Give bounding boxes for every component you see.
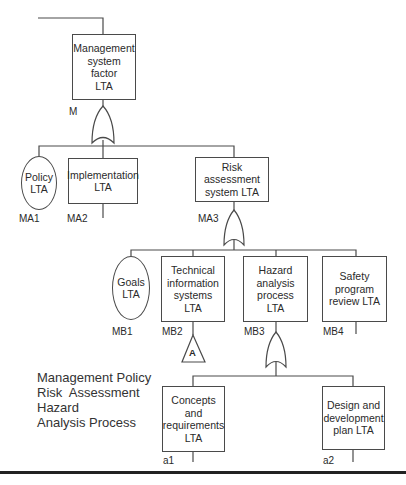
node-hazard-analysis-process[interactable]: Hazard analysis process LTA [243, 256, 308, 322]
or-gate-icon [266, 332, 286, 367]
node-text: systems [167, 289, 219, 302]
node-text: Implementation [67, 169, 139, 182]
node-text: information [167, 277, 219, 290]
node-text: requirements [163, 419, 224, 432]
node-id-label: MA3 [198, 213, 219, 224]
node-text: process [257, 289, 295, 302]
node-id-label: MA2 [67, 213, 88, 224]
node-safety-program-review[interactable]: Safety program review LTA [322, 256, 387, 322]
node-policy[interactable]: Policy LTA [21, 156, 57, 210]
node-management-system-factor[interactable]: Management system factor LTA [72, 34, 136, 100]
node-text: LTA [73, 80, 134, 93]
node-text: LTA [257, 302, 295, 315]
node-text: Safety [329, 270, 380, 283]
node-id-label: MB1 [112, 326, 133, 337]
transfer-label: A [189, 347, 196, 358]
node-text: LTA [25, 183, 53, 196]
node-text: development [323, 412, 383, 425]
node-text: LTA [67, 181, 139, 194]
legend-line: Hazard [37, 400, 151, 415]
node-design-and-development-plan[interactable]: Design and development plan LTA [322, 386, 385, 450]
node-text: Design and [323, 399, 383, 412]
node-text: review LTA [329, 295, 380, 308]
legend-line: Analysis Process [37, 415, 151, 430]
legend-line: Risk Assessment [37, 385, 151, 400]
clipped-caption [0, 479, 406, 485]
node-id-label: MA1 [19, 213, 40, 224]
node-id-label: M [69, 106, 77, 117]
node-text: Technical [167, 264, 219, 277]
node-text: system LTA [198, 186, 266, 199]
node-text: analysis [257, 277, 295, 290]
node-implementation[interactable]: Implementation LTA [68, 158, 138, 204]
node-text: LTA [117, 288, 144, 301]
node-goals[interactable]: Goals LTA [112, 256, 150, 320]
or-gate-icon [92, 106, 114, 143]
node-text: LTA [167, 302, 219, 315]
node-text: system [73, 55, 134, 68]
node-text: LTA [163, 432, 224, 445]
node-risk-assessment-system[interactable]: Risk assessment system LTA [195, 157, 269, 202]
node-text: plan LTA [323, 424, 383, 437]
node-text: Management [73, 42, 134, 55]
node-id-label: MB4 [323, 326, 344, 337]
node-text: Concepts and [163, 394, 224, 419]
node-text: Hazard [257, 264, 295, 277]
node-id-label: a2 [323, 455, 334, 466]
node-text: Policy [25, 171, 53, 184]
node-text: factor [73, 67, 134, 80]
node-technical-information-systems[interactable]: Technical information systems LTA [161, 256, 225, 322]
node-id-label: MB2 [162, 326, 183, 337]
diagram-legend: Management Policy Risk Assessment Hazard… [37, 370, 151, 430]
node-id-label: a1 [163, 455, 174, 466]
node-text: program [329, 283, 380, 296]
node-text: Goals [117, 276, 144, 289]
or-gate-icon [224, 210, 244, 245]
node-concepts-and-requirements[interactable]: Concepts and requirements LTA [162, 386, 225, 452]
node-text: Risk assessment [198, 161, 266, 186]
legend-line: Management Policy [37, 370, 151, 385]
bottom-rule [0, 471, 406, 474]
node-id-label: MB3 [244, 326, 265, 337]
